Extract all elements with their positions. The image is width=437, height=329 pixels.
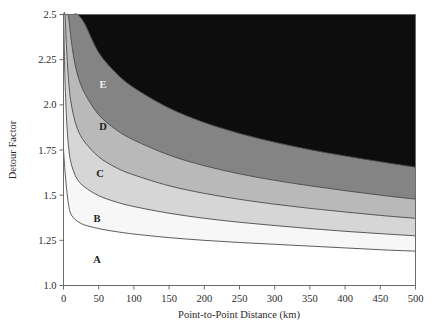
y-tick-label: 1.75 [38,145,56,156]
x-tick-label: 50 [93,293,104,304]
y-tick-label: 2.5 [43,9,56,20]
x-axis-title: Point-to-Point Distance (km) [178,309,300,321]
band-label-b: B [93,213,100,224]
band-areas [64,12,416,285]
x-axis-ticks: 050100150200250300350400450500 [61,286,424,304]
x-tick-label: 200 [196,293,212,304]
band-label-d: D [99,121,107,132]
y-tick-label: 2.25 [38,54,56,65]
x-tick-label: 350 [302,293,318,304]
x-tick-label: 0 [61,293,66,304]
x-tick-label: 150 [161,293,177,304]
y-tick-label: 2.0 [43,99,56,110]
y-tick-label: 1.0 [43,280,56,291]
x-tick-label: 250 [232,293,248,304]
x-tick-label: 400 [337,293,353,304]
detour-factor-chart: 050100150200250300350400450500 1.01.251.… [0,0,437,329]
x-tick-label: 100 [126,293,142,304]
x-tick-label: 300 [267,293,283,304]
band-label-c: C [96,168,104,179]
x-tick-label: 500 [408,293,424,304]
y-axis-title: Detour Factor [7,120,18,179]
band-label-a: A [93,254,101,265]
y-tick-label: 1.5 [43,190,56,201]
y-axis-ticks: 1.01.251.51.752.02.252.5 [38,9,63,291]
y-tick-label: 1.25 [38,235,56,246]
band-label-e: E [99,79,106,90]
x-tick-label: 450 [372,293,388,304]
chart-canvas: 050100150200250300350400450500 1.01.251.… [0,0,437,329]
